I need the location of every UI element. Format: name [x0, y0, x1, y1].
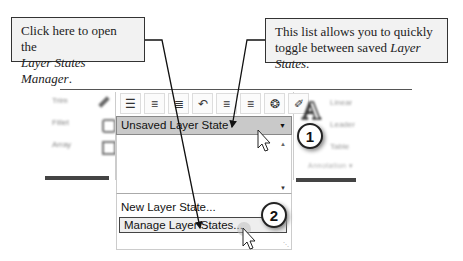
callout-layer-list: This list allows you to quickly toggle b…	[265, 18, 448, 63]
chevron-down-icon[interactable]: ▼	[279, 122, 286, 129]
callout-text: Click here to open the	[21, 23, 117, 54]
eraser-icon	[102, 119, 116, 133]
step-badge-1: 1	[297, 123, 323, 149]
linear-dimension-button[interactable]: Linear	[330, 98, 352, 107]
layer-isolate-icon[interactable]: ≡	[216, 93, 237, 114]
step-badge-2: 2	[261, 202, 287, 228]
new-layer-state-item[interactable]: New Layer State...	[121, 201, 216, 213]
layer-properties-icon[interactable]: ☰	[120, 93, 141, 114]
callout-suffix: .	[69, 71, 72, 86]
modify-panel: Trim Fillet Array	[52, 92, 112, 152]
table-button[interactable]: Table	[330, 142, 349, 151]
layer-state-icon[interactable]: ≡	[144, 93, 165, 114]
triangle-icon	[102, 141, 116, 155]
resize-grip-icon[interactable]: ⋱	[283, 240, 289, 247]
layer-match-icon[interactable]: ≣	[168, 93, 189, 114]
trim-button[interactable]: Trim	[52, 96, 68, 105]
layer-unisolate-icon[interactable]: ≡	[240, 93, 261, 114]
panel-divider	[296, 178, 356, 182]
pencil-icon	[98, 96, 109, 107]
fillet-button[interactable]: Fillet	[52, 118, 69, 127]
annotation-panel-title[interactable]: Annotation ▾	[308, 162, 353, 170]
array-button[interactable]: Array	[52, 140, 71, 149]
layer-freeze-icon[interactable]: ❂	[264, 93, 285, 114]
layer-previous-icon[interactable]: ↶	[192, 93, 213, 114]
text-icon[interactable]: A	[302, 96, 321, 126]
layer-toolbar: ☰ ≡ ≣ ↶ ≡ ≡ ❂ ✐	[120, 93, 309, 115]
callout-suffix: .	[306, 56, 309, 71]
leader-button[interactable]: Leader	[330, 120, 355, 129]
scroll-up-icon[interactable]: ▲	[280, 141, 286, 147]
scroll-down-icon[interactable]: ▼	[280, 185, 286, 191]
callout-italic: Layer States Manager	[21, 55, 86, 86]
layer-state-list[interactable]: ▲ ▼	[116, 135, 292, 193]
panel-divider	[45, 176, 109, 180]
layer-state-dropdown[interactable]: Unsaved Layer State ▼	[116, 116, 292, 135]
dropdown-selected-value: Unsaved Layer State	[121, 119, 228, 131]
ribbon-top-border	[60, 89, 412, 90]
callout-open-manager: Click here to open the Layer States Mana…	[11, 17, 145, 62]
